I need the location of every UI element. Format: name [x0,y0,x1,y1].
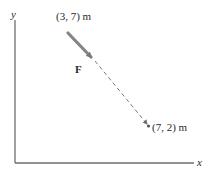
point-label-end: (7, 2) m [152,122,187,133]
x-axis-label: x [197,157,202,168]
force-label: F [75,64,82,75]
point-label-start: (3, 7) m [56,11,91,22]
force-diagram: y x (3, 7) m (7, 2) m F [0,0,208,176]
y-axis-label: y [11,9,16,20]
diagram-graphics [0,0,208,176]
force-vector-arrow [68,33,91,57]
line-of-action-dashed [95,61,147,124]
endpoint-dot [147,124,150,127]
